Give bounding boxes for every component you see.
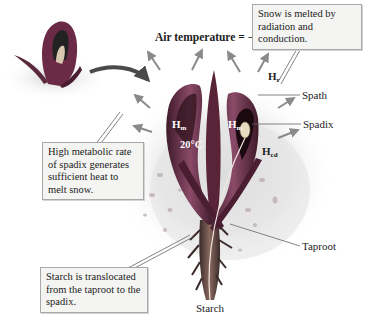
label-spadix: Spadix <box>303 118 334 130</box>
label-taproot: Taproot <box>302 240 336 252</box>
heat-symbol-metabolic-right: Hm <box>228 118 242 132</box>
label-starch: Starch <box>196 302 224 314</box>
heat-symbol-radiation: Hr <box>268 70 280 84</box>
inner-temperature-label: 20°C <box>180 139 202 150</box>
inset-plant <box>0 22 110 100</box>
label-spath: Spath <box>302 89 327 101</box>
callout-metabolic-rate: High metabolic rate of spadix generates … <box>42 142 144 200</box>
callout-snow-melt: Snow is melted by radiation and conducti… <box>252 4 362 50</box>
callout-starch-translocation: Starch is translocated from the taproot … <box>40 267 148 313</box>
skunk-cabbage-diagram: Air temperature = − 15°C Snow is melted … <box>0 0 368 327</box>
heat-symbol-conduction: Hcd <box>262 145 278 159</box>
heat-symbol-metabolic-left: Hm <box>172 118 186 132</box>
